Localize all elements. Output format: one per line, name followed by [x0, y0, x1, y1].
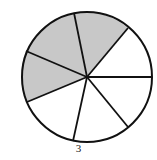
fraction-circle: [0, 0, 157, 160]
shaded-region: [21, 12, 128, 102]
spoke-3: [87, 77, 128, 127]
figure-label: 3: [0, 142, 157, 154]
spoke-4: [73, 77, 87, 141]
